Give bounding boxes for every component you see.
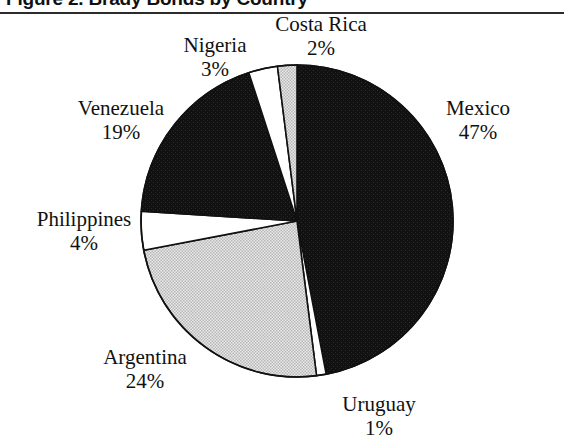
slice-label-philippines-name: Philippines	[8, 207, 160, 231]
slice-label-nigeria-value: 3%	[152, 57, 278, 81]
slice-label-mexico-value: 47%	[414, 120, 542, 144]
slice-label-uruguay-name: Uruguay	[310, 392, 448, 416]
slice-label-nigeria-name: Nigeria	[152, 33, 278, 57]
slice-label-venezuela: Venezuela 19%	[48, 96, 194, 144]
slice-label-venezuela-value: 19%	[48, 120, 194, 144]
slice-label-uruguay: Uruguay 1%	[310, 392, 448, 440]
slice-label-argentina-name: Argentina	[72, 345, 218, 369]
slice-label-venezuela-name: Venezuela	[48, 96, 194, 120]
slice-label-philippines: Philippines 4%	[8, 207, 160, 255]
slice-label-philippines-value: 4%	[8, 231, 160, 255]
slice-label-argentina: Argentina 24%	[72, 345, 218, 393]
slice-label-uruguay-value: 1%	[310, 416, 448, 440]
figure-container: Figure 2. Brady Bonds by Country Costa R…	[0, 0, 564, 447]
slice-label-mexico: Mexico 47%	[414, 96, 542, 144]
slice-label-nigeria: Nigeria 3%	[152, 33, 278, 81]
slice-label-mexico-name: Mexico	[414, 96, 542, 120]
slice-label-argentina-value: 24%	[72, 369, 218, 393]
